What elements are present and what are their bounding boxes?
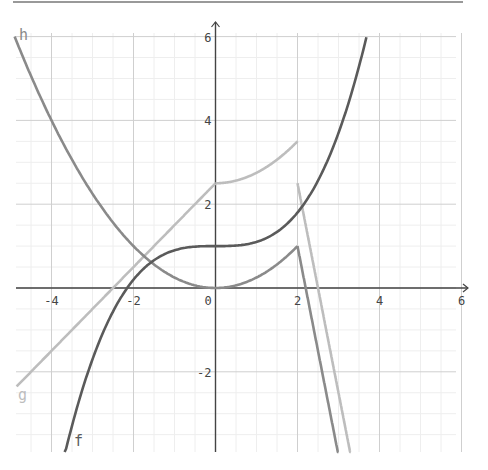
- curve-labels: h g f: [18, 26, 83, 450]
- y-tick-label: 6: [204, 31, 211, 45]
- y-tick-label: -2: [197, 366, 211, 380]
- x-tick-label: 6: [458, 294, 465, 308]
- label-f: f: [74, 432, 83, 450]
- curve-g-right: [298, 183, 351, 452]
- label-h: h: [19, 26, 28, 44]
- x-tick-label: -4: [44, 294, 58, 308]
- x-tick-label: 0: [205, 294, 212, 308]
- label-g: g: [18, 386, 27, 404]
- curves: [15, 37, 367, 453]
- function-graph: -4-20246642-2 h g f: [0, 0, 488, 470]
- y-tick-label: 2: [204, 198, 211, 212]
- x-tick-label: 4: [376, 294, 383, 308]
- y-tick-label: 4: [204, 114, 211, 128]
- x-tick-label: 2: [294, 294, 301, 308]
- x-tick-label: -2: [126, 294, 140, 308]
- curve-g-left: [17, 183, 216, 386]
- tick-labels: -4-20246642-2: [44, 31, 465, 380]
